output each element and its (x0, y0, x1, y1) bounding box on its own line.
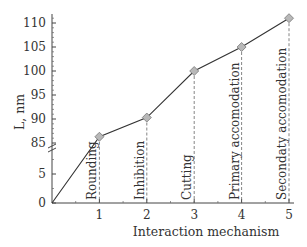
y-tick-label: 95 (31, 88, 46, 102)
y-tick-label: 5 (38, 167, 46, 181)
mechanism-label: Rounding (85, 141, 99, 200)
x-tick-label: 3 (190, 208, 198, 222)
y-tick-label: 85 (31, 136, 46, 150)
x-axis-title: Interaction mechanism (133, 224, 280, 239)
y-axis-title: L, nm (12, 94, 27, 130)
x-tick-label: 4 (238, 208, 246, 222)
y-tick-label: 100 (23, 64, 46, 78)
x-tick-label: 1 (96, 208, 104, 222)
line-chart: 8590951001051100512345Interaction mechan… (0, 0, 307, 247)
mechanism-label: Secondaty accomodation (275, 48, 289, 200)
y-tick-label: 105 (23, 40, 46, 54)
diamond-marker-icon (95, 132, 104, 141)
y-tick-label: 110 (23, 16, 46, 30)
mechanism-label: Inhibition (133, 141, 147, 200)
y-tick-label: 90 (31, 112, 46, 126)
diamond-marker-icon (237, 43, 246, 52)
mechanism-label: Primary accomodation (228, 62, 242, 200)
diamond-marker-icon (285, 14, 294, 23)
mechanism-label: Cutting (180, 154, 194, 200)
x-tick-label: 2 (143, 208, 151, 222)
x-tick-label: 5 (285, 208, 293, 222)
y-tick-label: 0 (38, 196, 46, 210)
